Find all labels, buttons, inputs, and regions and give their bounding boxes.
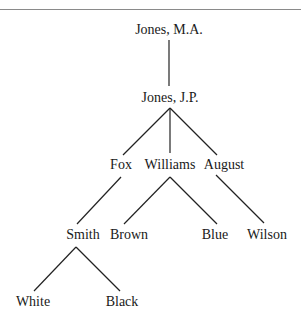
node-label: Jones, J.P. [142, 91, 199, 105]
edge-n3-n7 [170, 177, 217, 224]
edge-n2-n5 [77, 177, 121, 224]
edge-n5-n10 [76, 247, 120, 291]
node-label: Fox [110, 158, 132, 172]
node-label: August [204, 158, 244, 172]
node-label: Williams [145, 158, 196, 172]
node-label: Jones, M.A. [135, 23, 203, 37]
node-label: Wilson [247, 228, 287, 242]
node-label: Blue [202, 228, 228, 242]
edge-n5-n9 [34, 247, 76, 291]
node-label: Smith [66, 228, 99, 242]
node-label: White [16, 295, 50, 309]
node-label: Black [106, 295, 139, 309]
edge-n3-n6 [124, 177, 170, 224]
edge-n1-n2 [123, 108, 170, 155]
edge-n4-n8 [216, 175, 264, 223]
node-label: Brown [110, 228, 148, 242]
edge-n1-n4 [170, 108, 217, 155]
